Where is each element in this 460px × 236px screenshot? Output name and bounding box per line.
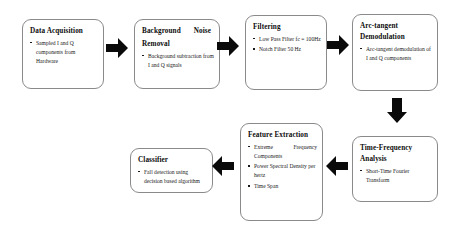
bullet-item: Background subtraction from I and Q sign…	[141, 52, 214, 70]
node-title-filtering: Filtering	[253, 22, 321, 33]
node-bullets-arc-tangent-demodulation: Arc-tangent demodulation of I and Q comp…	[359, 45, 432, 63]
arrow-right-icon	[106, 37, 129, 59]
bullet-item: Notch Filter 50 Hz	[252, 45, 321, 54]
node-title-time-frequency-analysis: Time-Frequency Analysis	[360, 143, 432, 165]
node-title-background-noise-removal-line1: Background Noise	[142, 26, 214, 37]
node-title-feature-extraction: Feature Extraction	[248, 130, 317, 141]
bullet-item: Arc-tangent demodulation of I and Q comp…	[359, 45, 432, 63]
arrow-down-icon	[386, 98, 408, 124]
bullet-item: Low Pass Filter fc = 100Hz	[252, 35, 321, 44]
bullet-item: Time Span	[247, 182, 317, 191]
node-arc-tangent-demodulation[interactable]: Arc-tangent Demodulation Arc-tangent dem…	[352, 14, 438, 91]
bullet-item: Fall detection using decision based algo…	[137, 168, 207, 186]
node-bullets-data-acquisition: Sampled I and Q components from Hardware	[29, 39, 98, 66]
bullet-item: Power Spectral Density per hertz	[247, 162, 317, 180]
arrow-left-icon	[325, 155, 348, 177]
node-background-noise-removal[interactable]: Background Noise Removal Background subt…	[134, 19, 220, 89]
node-bullets-classifier: Fall detection using decision based algo…	[137, 168, 207, 186]
node-feature-extraction[interactable]: Feature Extraction Extreme Frequency Com…	[240, 123, 323, 221]
node-filtering[interactable]: Filtering Low Pass Filter fc = 100Hz Not…	[245, 15, 327, 90]
node-title-classifier: Classifier	[138, 155, 207, 166]
flowchart-canvas: Data Acquisition Sampled I and Q compone…	[0, 0, 460, 236]
bullet-item: Short-Time Fourier Transform	[359, 167, 432, 185]
bullet-item: Sampled I and Q components from Hardware	[29, 39, 98, 66]
node-bullets-time-frequency-analysis: Short-Time Fourier Transform	[359, 167, 432, 185]
node-data-acquisition[interactable]: Data Acquisition Sampled I and Q compone…	[22, 19, 104, 89]
node-time-frequency-analysis[interactable]: Time-Frequency Analysis Short-Time Fouri…	[352, 136, 438, 202]
title-word-noise: Noise	[194, 27, 211, 35]
node-title-arc-tangent-demodulation: Arc-tangent Demodulation	[360, 21, 432, 43]
node-bullets-filtering: Low Pass Filter fc = 100Hz Notch Filter …	[252, 35, 321, 55]
arrow-left-icon	[211, 155, 234, 177]
title-word-background: Background	[142, 27, 181, 35]
node-bullets-feature-extraction: Extreme Frequency Components Power Spect…	[247, 143, 317, 191]
node-bullets-background-noise-removal: Background subtraction from I and Q sign…	[141, 52, 214, 70]
node-title-background-noise-removal-line2: Removal	[142, 39, 214, 50]
node-title-data-acquisition: Data Acquisition	[30, 26, 98, 37]
bullet-item: Extreme Frequency Components	[247, 143, 317, 161]
arrow-right-icon	[217, 35, 240, 57]
node-classifier[interactable]: Classifier Fall detection using decision…	[130, 148, 213, 193]
arrow-right-icon	[327, 34, 350, 56]
